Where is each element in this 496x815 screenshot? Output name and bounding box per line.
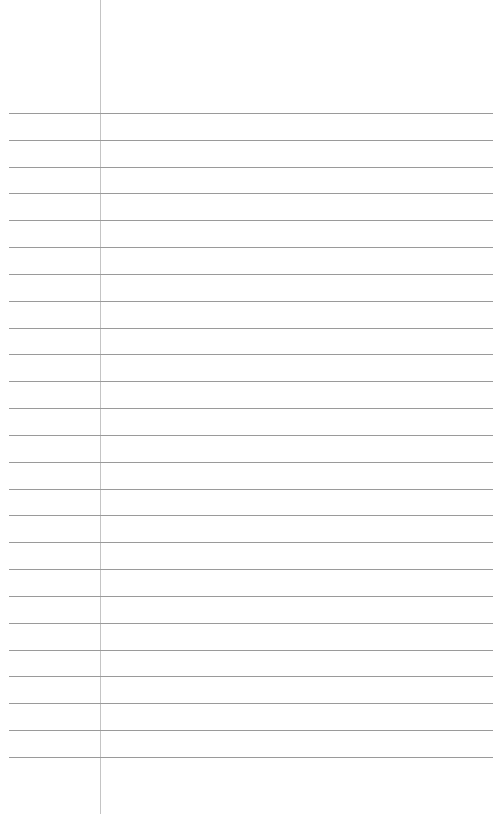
- ruled-line: [9, 381, 493, 382]
- ruled-line: [9, 301, 493, 302]
- ruled-line: [9, 113, 493, 114]
- ruled-line: [9, 247, 493, 248]
- ruled-line: [9, 542, 493, 543]
- ruled-line: [9, 220, 493, 221]
- ruled-line: [9, 328, 493, 329]
- ruled-line: [9, 703, 493, 704]
- ruled-line: [9, 730, 493, 731]
- margin-line: [100, 0, 101, 814]
- ruled-line: [9, 489, 493, 490]
- notebook-page: [0, 0, 496, 815]
- ruled-line: [9, 596, 493, 597]
- ruled-line: [9, 515, 493, 516]
- ruled-line: [9, 274, 493, 275]
- ruled-line: [9, 676, 493, 677]
- ruled-line: [9, 650, 493, 651]
- ruled-line: [9, 354, 493, 355]
- ruled-line: [9, 193, 493, 194]
- ruled-line: [9, 569, 493, 570]
- ruled-line: [9, 408, 493, 409]
- ruled-line: [9, 435, 493, 436]
- ruled-line: [9, 462, 493, 463]
- ruled-line: [9, 757, 493, 758]
- ruled-line: [9, 623, 493, 624]
- ruled-line: [9, 140, 493, 141]
- ruled-line: [9, 167, 493, 168]
